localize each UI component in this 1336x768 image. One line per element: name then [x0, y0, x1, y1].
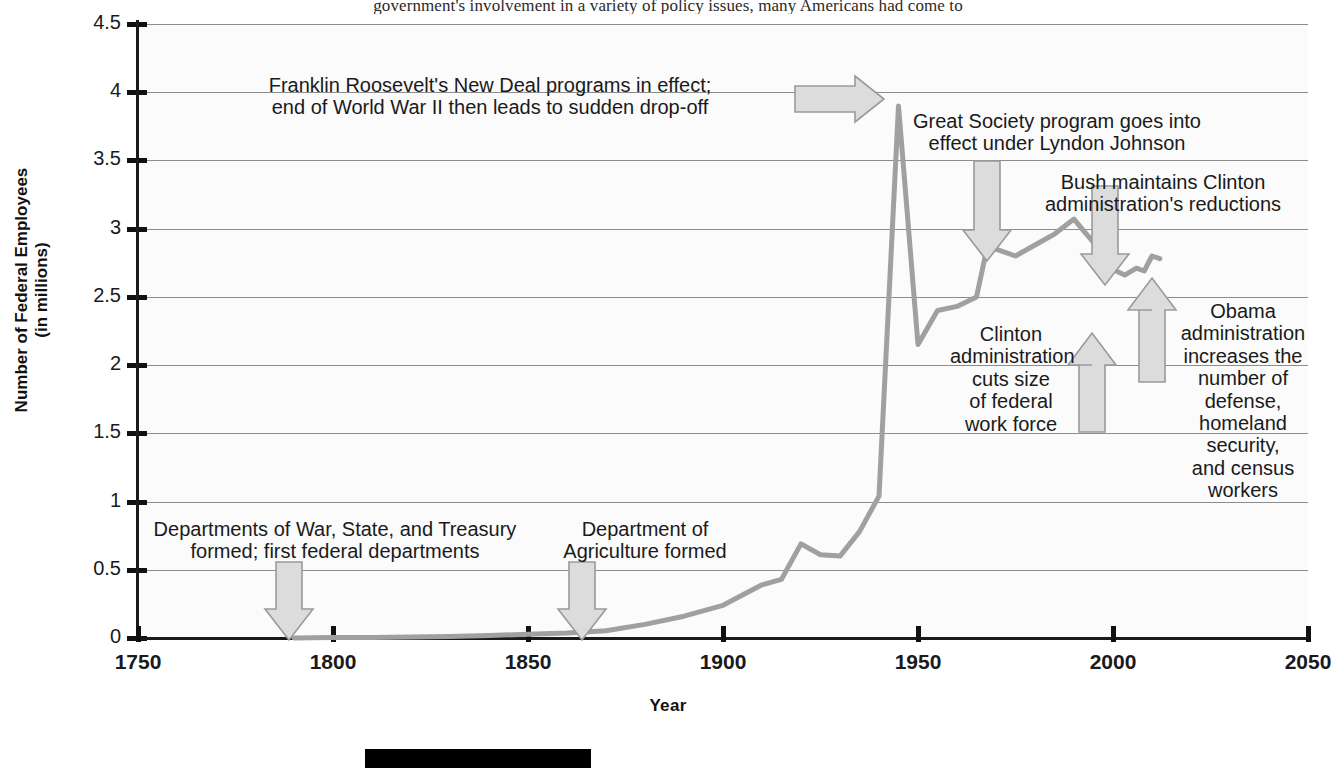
x-axis-tick	[916, 626, 921, 642]
x-axis-tick-label: 2050	[1253, 650, 1336, 674]
annotation-obama-increases: Obama administration increases the numbe…	[1178, 300, 1308, 502]
y-axis-tick-label: 0.5	[51, 557, 121, 580]
x-axis-tick	[526, 626, 531, 642]
gridline	[138, 570, 1308, 571]
x-axis-title: Year	[0, 696, 1336, 716]
x-axis-tick	[331, 626, 336, 642]
gridline	[138, 229, 1308, 230]
x-axis-tick-label: 1750	[83, 650, 193, 674]
page-footer-black-bar	[365, 749, 591, 768]
y-axis-tick-label: 3.5	[51, 147, 121, 170]
y-axis-title-line1: Number of Federal Employees	[12, 125, 32, 455]
page-body-text-fragment: government's involvement in a variety of…	[0, 0, 1336, 14]
gridline	[138, 433, 1308, 434]
x-axis-tick-label: 1900	[668, 650, 778, 674]
gridline	[138, 24, 1308, 25]
y-axis-tick-label: 3	[51, 216, 121, 239]
x-axis-tick	[1111, 626, 1116, 642]
y-axis-tick-label: 0	[51, 625, 121, 648]
gridline	[138, 160, 1308, 161]
gridline	[138, 297, 1308, 298]
annotation-clinton-cuts: Clinton administration cuts size of fede…	[950, 323, 1072, 435]
y-axis-tick-label: 4.5	[51, 11, 121, 34]
annotation-great-society: Great Society program goes into effect u…	[892, 110, 1222, 155]
y-axis-title: Number of Federal Employees (in millions…	[12, 125, 52, 455]
y-axis-tick-label: 4	[51, 79, 121, 102]
annotation-bush-maintains: Bush maintains Clinton administration's …	[1013, 171, 1313, 216]
x-axis-tick-label: 1850	[473, 650, 583, 674]
y-axis-tick-label: 2.5	[51, 284, 121, 307]
x-axis-tick-label: 1950	[863, 650, 973, 674]
y-axis-title-line2: (in millions)	[32, 125, 52, 455]
x-axis-tick-label: 1800	[278, 650, 388, 674]
x-axis-tick	[136, 626, 141, 642]
gridline	[138, 365, 1308, 366]
gridline	[138, 502, 1308, 503]
x-axis-tick-label: 2000	[1058, 650, 1168, 674]
y-axis-tick-label: 1.5	[51, 420, 121, 443]
y-axis-tick-label: 2	[51, 352, 121, 375]
x-axis-tick	[1306, 626, 1311, 642]
y-axis-line	[136, 20, 139, 642]
annotation-first-departments: Departments of War, State, and Treasury …	[140, 518, 530, 563]
annotation-agriculture-formed: Department of Agriculture formed	[545, 518, 745, 563]
y-axis-tick-label: 1	[51, 489, 121, 512]
x-axis-tick	[721, 626, 726, 642]
annotation-fdr-new-deal: Franklin Roosevelt's New Deal programs i…	[180, 74, 800, 119]
